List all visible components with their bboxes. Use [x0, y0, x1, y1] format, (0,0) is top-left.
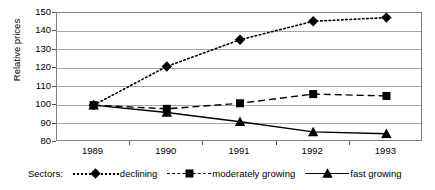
x-axis-tick-label: 1992: [287, 145, 337, 156]
plot-area: [56, 12, 422, 141]
data-point-marker: [162, 61, 172, 71]
data-point-marker: [308, 16, 318, 26]
legend-marker-square-icon: [183, 167, 196, 180]
y-axis-tick-label: 140: [25, 25, 51, 35]
legend-item-moderately-growing[interactable]: moderately growing: [167, 167, 295, 179]
legend-marker-triangle-icon: [321, 167, 334, 180]
y-axis-tick-mark: [52, 141, 56, 142]
data-point-marker: [236, 99, 244, 107]
data-point-marker: [381, 12, 391, 22]
legend-items: decliningmoderately growingfast growing: [63, 167, 402, 179]
legend-swatch: [167, 167, 211, 179]
legend-label: fast growing: [350, 168, 401, 179]
legend-marker-diamond-icon: [89, 167, 102, 180]
legend-swatch: [73, 167, 119, 179]
y-axis-tick-label: 130: [25, 44, 51, 54]
series-layer: [57, 13, 423, 142]
series-declining: [88, 12, 391, 110]
x-axis-tick-label: 1989: [68, 145, 118, 156]
legend-item-declining[interactable]: declining: [73, 167, 158, 179]
y-axis-tick-label: 110: [25, 81, 51, 91]
y-axis-tick-label: 80: [25, 136, 51, 146]
legend-item-fast-growing[interactable]: fast growing: [305, 167, 401, 179]
series-line: [94, 18, 387, 106]
y-axis-tick-label: 150: [25, 7, 51, 17]
x-axis-tick-label: 1993: [360, 145, 410, 156]
x-axis-tick-label: 1991: [214, 145, 264, 156]
y-axis-tick-label: 90: [25, 118, 51, 128]
x-axis-tick-label: 1990: [141, 145, 191, 156]
chart-legend: Sectors: decliningmoderately growingfast…: [0, 163, 435, 183]
y-axis-tick-label: 100: [25, 99, 51, 109]
y-axis-tick-label: 120: [25, 62, 51, 72]
y-axis-title: Relative prices: [10, 0, 24, 110]
legend-label: declining: [120, 168, 158, 179]
data-point-marker: [382, 92, 390, 100]
legend-title: Sectors:: [28, 168, 63, 179]
chart-container: Relative prices 8090100110120130140150 1…: [0, 0, 435, 190]
data-point-marker: [235, 35, 245, 45]
data-point-marker: [309, 90, 317, 98]
legend-label: moderately growing: [212, 168, 295, 179]
legend-swatch: [305, 167, 349, 179]
